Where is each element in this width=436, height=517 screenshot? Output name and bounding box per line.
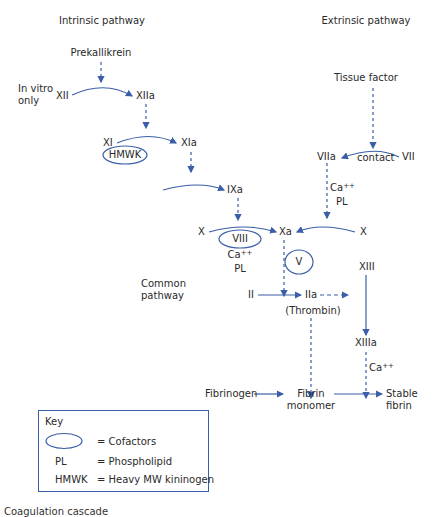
node-vii: VII <box>402 151 415 163</box>
node-stable-fibrin: Stable fibrin <box>386 388 418 412</box>
key-desc-cofactors: = Cofactors <box>97 436 156 448</box>
cofactor-v: V <box>296 256 303 268</box>
stable-line1: Stable <box>386 388 418 400</box>
pl-right: PL <box>336 196 348 208</box>
ca-left: Ca++ <box>228 249 253 261</box>
cofactor-hmwk: HMWK <box>109 149 142 161</box>
key-symbol-hmwk: HMWK <box>55 474 88 486</box>
node-xii: XII <box>56 90 69 102</box>
intrinsic-pathway-header: Intrinsic pathway <box>59 15 145 27</box>
cofactor-viii: VIII <box>232 233 248 245</box>
node-ixa: IXa <box>227 184 243 196</box>
node-xiii: XIII <box>359 261 375 273</box>
key-desc-hmwk: = Heavy MW kininogen <box>97 474 214 486</box>
node-ii: II <box>248 289 254 301</box>
node-xi: XI <box>103 137 113 149</box>
in-vitro-line1: In vitro <box>18 83 53 95</box>
node-tissue-factor: Tissue factor <box>334 72 398 84</box>
node-iia: IIa <box>305 289 317 301</box>
common-line1: Common <box>141 278 186 290</box>
node-fibrin-monomer: Fibrin monomer <box>287 388 335 412</box>
node-xiiia: XIIIa <box>355 337 377 349</box>
cofactor-oval-icon <box>44 432 84 450</box>
node-xiia: XIIa <box>136 90 155 102</box>
label-contact: contact <box>357 152 394 164</box>
key-desc-phospholipid: = Phospholipid <box>97 456 172 468</box>
key-title: Key <box>45 416 63 428</box>
label-in-vitro: In vitro only <box>18 83 53 107</box>
ca-right: Ca++ <box>330 182 355 194</box>
ca-xiiia: Ca++ <box>369 362 394 374</box>
extrinsic-pathway-header: Extrinsic pathway <box>321 15 410 27</box>
node-prekallikrein: Prekallikrein <box>71 47 132 59</box>
common-line2: pathway <box>141 290 186 302</box>
label-thrombin: (Thrombin) <box>285 305 340 317</box>
figure-caption: Coagulation cascade <box>4 506 108 517</box>
fibrin-line2: monomer <box>287 400 335 412</box>
fibrin-line1: Fibrin <box>287 388 335 400</box>
node-x-right: X <box>360 226 367 238</box>
node-viia: VIIa <box>317 151 336 163</box>
legend-key: Key = Cofactors PL = Phospholipid HMWK =… <box>38 410 209 492</box>
node-fibrinogen: Fibrinogen <box>205 388 257 400</box>
key-symbol-pl: PL <box>55 456 67 468</box>
in-vitro-line2: only <box>18 95 53 107</box>
stable-line2: fibrin <box>386 400 418 412</box>
node-xa: Xa <box>279 226 292 238</box>
common-pathway-header: Common pathway <box>141 278 186 302</box>
pl-left: PL <box>234 263 246 275</box>
node-xia: XIa <box>181 137 197 149</box>
node-x-left: X <box>198 226 205 238</box>
